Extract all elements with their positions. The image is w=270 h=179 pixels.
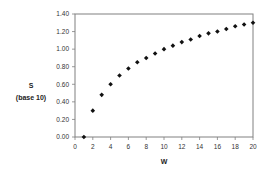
y-tick-label: 0.20 [56,116,69,123]
x-tick-label: 10 [160,143,168,150]
data-point-marker [180,40,185,45]
y-tick-label: 0.60 [56,81,69,88]
y-tick-label: 1.20 [56,28,69,35]
x-tick-label: 18 [232,143,240,150]
x-tick-label: 16 [214,143,222,150]
y-tick-label: 1.40 [56,10,69,17]
data-point-marker [215,29,220,34]
scatter-chart: 0.000.200.400.600.801.001.201.40 0246810… [0,0,270,179]
data-point-marker [206,31,211,36]
data-point-marker [82,135,87,140]
y-tick-label: 0.00 [56,133,69,140]
y-tick-label: 1.00 [56,45,69,52]
data-point-marker [144,56,149,61]
x-tick-label: 14 [196,143,204,150]
data-point-marker [153,51,158,56]
x-tick-label: 8 [144,143,148,150]
data-point-marker [135,60,140,65]
data-point-marker [242,22,247,27]
x-axis-title: W [161,158,168,165]
data-point-marker [224,27,229,32]
data-series [82,20,256,139]
data-point-marker [117,73,122,78]
data-point-marker [162,47,167,52]
x-tick-label: 4 [109,143,113,150]
x-tick-label: 20 [249,143,257,150]
x-tick-label: 12 [178,143,186,150]
data-point-marker [99,93,104,98]
y-axis-title: S [29,82,34,89]
data-point-marker [188,37,193,42]
data-point-marker [197,34,202,39]
data-point-marker [251,20,256,25]
data-point-marker [233,24,238,29]
data-point-marker [171,43,176,48]
data-point-marker [91,108,96,113]
x-tick-label: 0 [73,143,77,150]
y-axis-subtitle: (base 10) [16,94,46,102]
y-tick-label: 0.40 [56,98,69,105]
y-axis: 0.000.200.400.600.801.001.201.40 [56,10,75,140]
x-tick-label: 6 [127,143,131,150]
x-tick-label: 2 [91,143,95,150]
data-point-marker [126,66,131,71]
x-axis: 02468101214161820 [73,137,257,150]
y-tick-label: 0.80 [56,63,69,70]
plot-border [75,14,253,137]
plot-area [75,14,253,137]
data-point-marker [108,82,113,87]
